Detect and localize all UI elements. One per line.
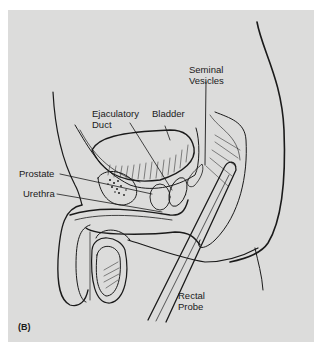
leader-seminal-vesicles bbox=[205, 82, 206, 165]
label-rectal-probe: Rectal Probe bbox=[178, 290, 205, 312]
label-line: Ejaculatory bbox=[92, 108, 139, 119]
label-line: Seminal bbox=[189, 64, 224, 75]
leader-ejaculatory-duct bbox=[130, 123, 172, 190]
label-seminal-vesicles: Seminal Vesicles bbox=[189, 64, 224, 86]
body-outline-back bbox=[230, 22, 284, 262]
label-line: Probe bbox=[178, 301, 205, 312]
label-bladder: Bladder bbox=[152, 108, 185, 119]
label-prostate: Prostate bbox=[19, 168, 54, 179]
testis-outline bbox=[96, 246, 120, 296]
label-urethra: Urethra bbox=[23, 188, 55, 199]
urethra-path bbox=[70, 200, 188, 215]
scrotum-outline bbox=[92, 238, 127, 303]
panel-label: (B) bbox=[18, 322, 31, 332]
bladder-outline bbox=[92, 130, 194, 181]
label-ejaculatory-duct: Ejaculatory Duct bbox=[92, 108, 139, 130]
label-line: Vesicles bbox=[189, 75, 224, 86]
penis-outline-upper bbox=[58, 205, 88, 306]
leader-bladder bbox=[165, 126, 170, 140]
leg-outline-right bbox=[255, 248, 263, 290]
label-line: Rectal bbox=[178, 290, 205, 301]
abdomen-outline bbox=[53, 92, 82, 205]
label-line: Duct bbox=[92, 119, 139, 130]
